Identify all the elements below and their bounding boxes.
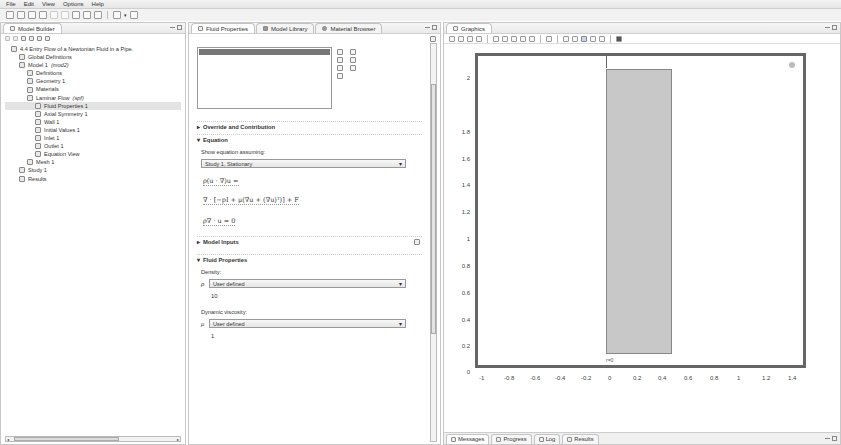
tree-item[interactable]: Wall 1 xyxy=(5,118,181,126)
zoom-in-icon[interactable] xyxy=(493,36,499,42)
tab-progress[interactable]: Progress xyxy=(491,434,531,444)
geometry-rectangle[interactable] xyxy=(606,69,672,354)
scrollbar-thumb[interactable] xyxy=(431,84,436,334)
zoom-selection-icon[interactable] xyxy=(520,36,526,42)
tab-messages[interactable]: Messages xyxy=(446,434,489,444)
minimize-icon[interactable] xyxy=(170,27,175,29)
vertical-scrollbar[interactable] xyxy=(430,43,437,442)
tree-item[interactable]: Laminar Flow(spf) xyxy=(5,94,181,102)
screenshot-icon[interactable] xyxy=(616,36,622,42)
remove-icon[interactable] xyxy=(350,57,356,63)
minimize-icon[interactable] xyxy=(825,27,830,29)
horizontal-scrollbar[interactable]: ◂ ▸ xyxy=(5,436,181,442)
tab-fluid-properties[interactable]: Fluid Properties xyxy=(191,23,255,33)
extra-icon[interactable] xyxy=(130,11,138,19)
paste-icon[interactable] xyxy=(337,65,343,71)
select-boundaries-icon[interactable] xyxy=(590,36,596,42)
tab-log[interactable]: Log xyxy=(534,434,561,444)
minimize-icon[interactable] xyxy=(825,438,830,440)
viscosity-value[interactable]: 1 xyxy=(211,333,214,339)
print-icon[interactable] xyxy=(39,11,47,19)
render-mode-icon[interactable] xyxy=(581,36,587,42)
section-model-inputs[interactable]: ▸ Model Inputs xyxy=(197,236,422,246)
tab-model-library[interactable]: Model Library xyxy=(256,23,314,33)
dropdown-icon[interactable]: ▾ xyxy=(124,12,127,18)
density-select[interactable]: User defined ▾ xyxy=(209,279,406,288)
zoom-extents-icon[interactable] xyxy=(529,36,535,42)
menu-file[interactable]: File xyxy=(6,1,16,7)
show-icon[interactable] xyxy=(430,36,436,42)
maximize-icon[interactable] xyxy=(832,25,837,30)
tree-item[interactable]: Geometry 1 xyxy=(5,77,181,85)
tree-item[interactable]: Outlet 1 xyxy=(5,142,181,150)
sort-icon[interactable] xyxy=(37,36,42,41)
tab-graphics[interactable]: Graphics xyxy=(446,23,492,33)
open-icon[interactable] xyxy=(17,11,25,19)
back-icon[interactable] xyxy=(5,36,10,41)
tree-item[interactable]: Study 1 xyxy=(5,166,181,174)
density-value[interactable]: 10 xyxy=(211,293,217,299)
section-override[interactable]: ▸ Override and Contribution xyxy=(197,121,422,131)
rotate-icon[interactable] xyxy=(467,36,473,42)
selected-item[interactable] xyxy=(199,49,330,55)
sort-icon[interactable] xyxy=(350,65,356,71)
menu-edit[interactable]: Edit xyxy=(24,1,34,7)
viscosity-select[interactable]: User defined ▾ xyxy=(209,319,406,328)
expand-icon[interactable] xyxy=(21,36,26,41)
filter-icon[interactable] xyxy=(45,36,50,41)
tree-item[interactable]: 4.4 Entry Flow of a Newtonian Fluid in a… xyxy=(5,45,181,53)
layout-icon[interactable] xyxy=(83,11,91,19)
tab-model-builder[interactable]: Model Builder xyxy=(3,23,62,33)
pencil-icon[interactable] xyxy=(337,49,343,55)
maximize-icon[interactable] xyxy=(177,25,182,30)
plot-canvas[interactable]: r=0 xyxy=(475,53,806,368)
settings-icon[interactable] xyxy=(72,11,80,19)
scroll-right-icon[interactable]: ▸ xyxy=(177,437,179,442)
hide-icon[interactable] xyxy=(599,36,605,42)
tree-item[interactable]: Global Definitions xyxy=(5,53,181,61)
tree-item[interactable]: Inlet 1 xyxy=(5,134,181,142)
minimize-icon[interactable] xyxy=(425,27,430,29)
tree-item[interactable]: Initial Values 1 xyxy=(5,126,181,134)
tree-item[interactable]: Model 1(mod2) xyxy=(5,61,181,69)
maximize-icon[interactable] xyxy=(432,25,437,30)
tree-item[interactable]: Fluid Properties 1 xyxy=(5,102,181,110)
tree-item[interactable]: Axial Symmetry 1 xyxy=(5,110,181,118)
tree-item[interactable]: Materials xyxy=(5,85,181,93)
camera-dropdown-icon[interactable] xyxy=(476,36,482,42)
transparency-icon[interactable] xyxy=(563,36,569,42)
scrollbar-thumb[interactable] xyxy=(14,437,119,441)
wireframe-icon[interactable] xyxy=(572,36,578,42)
maximize-icon[interactable] xyxy=(832,436,837,441)
menu-help[interactable]: Help xyxy=(92,1,104,7)
undo-icon[interactable] xyxy=(50,11,58,19)
view-icon[interactable] xyxy=(458,36,464,42)
build-icon[interactable] xyxy=(113,11,121,19)
selection-listbox[interactable] xyxy=(197,47,332,109)
study-select[interactable]: Study 1, Stationary ▾ xyxy=(201,159,406,168)
tree-item[interactable]: Equation View xyxy=(5,150,181,158)
zoom-out-icon[interactable] xyxy=(502,36,508,42)
zoom-selection-icon[interactable] xyxy=(337,73,343,79)
menu-options[interactable]: Options xyxy=(63,1,84,7)
model-inputs-icon[interactable] xyxy=(414,239,420,245)
collapse-icon[interactable] xyxy=(29,36,34,41)
forward-icon[interactable] xyxy=(13,36,18,41)
section-equation[interactable]: ▾ Equation xyxy=(197,134,422,144)
tree-item[interactable]: Results xyxy=(5,175,181,183)
copy-icon[interactable] xyxy=(337,57,343,63)
tree-item[interactable]: Definitions xyxy=(5,69,181,77)
window-icon[interactable] xyxy=(94,11,102,19)
new-file-icon[interactable] xyxy=(6,11,14,19)
zoom-box-icon[interactable] xyxy=(511,36,517,42)
tab-results[interactable]: Results xyxy=(562,434,598,444)
section-fluid-properties[interactable]: ▾ Fluid Properties xyxy=(197,254,422,264)
select-icon[interactable] xyxy=(449,36,455,42)
scroll-left-icon[interactable]: ◂ xyxy=(6,437,9,442)
tree-item[interactable]: Mesh 1 xyxy=(5,158,181,166)
axis-dropdown-icon[interactable] xyxy=(546,36,552,42)
redo-icon[interactable] xyxy=(61,11,69,19)
tab-material-browser[interactable]: Material Browser xyxy=(315,23,382,33)
menu-view[interactable]: View xyxy=(42,1,55,7)
add-icon[interactable] xyxy=(350,49,356,55)
